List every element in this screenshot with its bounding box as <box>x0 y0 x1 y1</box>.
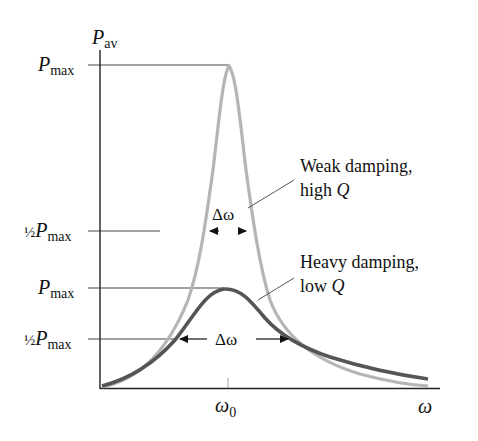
heavy-label-line2: low Q <box>300 276 345 296</box>
y-tick-half-pmax-low: ½Pmax <box>24 327 72 352</box>
axes <box>100 50 440 389</box>
y-axis-label: Pav <box>91 26 117 51</box>
x-tick-omega0: ω0 <box>215 394 236 420</box>
weak-leader-line <box>248 180 294 208</box>
y-tick-pmax-high: Pmax <box>37 53 74 78</box>
delta-omega-narrow: Δω <box>210 205 246 231</box>
x-axis-label: ω <box>418 395 432 417</box>
delta-omega-narrow-label: Δω <box>212 205 234 224</box>
weak-label-line1: Weak damping, <box>300 156 413 176</box>
y-tick-pmax-low: Pmax <box>37 276 74 301</box>
weak-label-line2: high Q <box>300 180 350 200</box>
delta-omega-wide-label: Δω <box>215 330 237 349</box>
y-tick-half-pmax-high: ½Pmax <box>24 219 72 244</box>
heavy-label-line1: Heavy damping, <box>300 252 419 272</box>
heavy-damping-curve <box>102 289 428 386</box>
delta-omega-wide: Δω <box>180 330 288 349</box>
resonance-diagram: Δω Δω Weak damping, high Q Heavy damping… <box>0 0 478 441</box>
